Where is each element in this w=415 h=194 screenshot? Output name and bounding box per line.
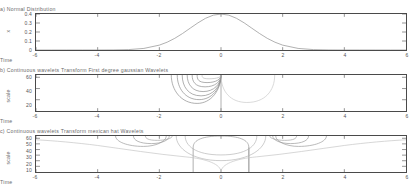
subplot-c-ylabel: scale: [5, 146, 11, 170]
subplot-a-xtick-0: -6: [25, 52, 45, 58]
subplot-a-plot-area: [36, 14, 406, 50]
subplot-c-ytick-4: 20: [14, 161, 32, 167]
subplot-b-ytick-0: 60: [14, 74, 32, 80]
subplot-b-xtick-3: 0: [211, 113, 231, 119]
subplot-b-plot-area: [36, 75, 406, 111]
subplot-b-xtick-5: 4: [335, 113, 355, 119]
subplot-c-ticks: [36, 136, 406, 172]
subplot-c-ytick-3: 30: [14, 154, 32, 160]
subplot-c-xtick-2: -2: [149, 174, 169, 180]
subplot-a-ytick-3: 0.1: [14, 38, 32, 44]
subplot-a-xtick-4: 2: [273, 52, 293, 58]
subplot-a-ylabel: x: [5, 22, 11, 40]
subplot-b-xtick-0: -6: [25, 113, 45, 119]
subplot-a-xtick-6: 6: [397, 52, 415, 58]
subplot-b-xtick-4: 2: [273, 113, 293, 119]
subplot-c-ytick-0: 60: [14, 135, 32, 141]
subplot-a-xtick-1: -4: [87, 52, 107, 58]
subplot-c-contours: [36, 136, 406, 172]
subplot-b-contours: [171, 75, 274, 111]
subplot-b-ytick-2: 20: [14, 102, 32, 108]
subplot-c-plot-area: [36, 136, 406, 172]
subplot-b-xtick-1: -4: [87, 113, 107, 119]
figure-canvas: a) Normal Distribution x 0.4 0.3 0.2 0.1…: [0, 0, 415, 194]
subplot-b-xtick-6: 6: [397, 113, 415, 119]
subplot-c-ytick-2: 40: [14, 148, 32, 154]
subplot-a-ytick-2: 0.2: [14, 29, 32, 35]
subplot-a-xtick-2: -2: [149, 52, 169, 58]
subplot-c-ytick-1: 50: [14, 141, 32, 147]
subplot-a-axes: [35, 13, 407, 51]
normal-distribution-curve: [36, 14, 406, 50]
subplot-b-axes: [35, 74, 407, 112]
subplot-c-ytick-5: 10: [14, 167, 32, 173]
subplot-c-axes: [35, 135, 407, 173]
subplot-c-xtick-3: 0: [211, 174, 231, 180]
subplot-a-ytick-0: 0.4: [14, 11, 32, 17]
subplot-b-xtick-2: -2: [149, 113, 169, 119]
subplot-c-xtick-4: 2: [273, 174, 293, 180]
subplot-a-ytick-1: 0.3: [14, 20, 32, 26]
subplot-c-xtick-6: 6: [397, 174, 415, 180]
subplot-c-xtick-5: 4: [335, 174, 355, 180]
subplot-a-xtick-3: 0: [211, 52, 231, 58]
subplot-c-xtick-1: -4: [87, 174, 107, 180]
subplot-b-ylabel: scale: [5, 84, 11, 108]
subplot-a-ticks: [36, 14, 406, 50]
subplot-a-xtick-5: 4: [335, 52, 355, 58]
subplot-b-ytick-1: 40: [14, 88, 32, 94]
subplot-c-xtick-0: -6: [25, 174, 45, 180]
